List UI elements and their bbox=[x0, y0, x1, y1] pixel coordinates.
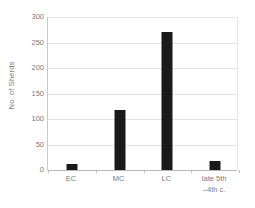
x-axis-tick bbox=[48, 170, 49, 173]
x-axis-tick-labels: ECMCLClate 5th–4th c. bbox=[47, 174, 238, 206]
y-tick-label-300: 300 bbox=[31, 13, 44, 21]
x-tick-label-line: MC bbox=[113, 174, 125, 183]
y-axis-title: No. of Sherds bbox=[5, 0, 19, 170]
x-tick-label-line: EC bbox=[66, 174, 76, 183]
y-tick-label-0: 0 bbox=[40, 166, 44, 174]
x-tick-label: LC bbox=[162, 174, 172, 185]
plot-area: 050100150200250300 bbox=[47, 17, 238, 170]
bar bbox=[210, 161, 221, 170]
bars-group bbox=[48, 17, 237, 170]
bar bbox=[162, 32, 173, 170]
x-tick-label: MC bbox=[113, 174, 125, 185]
y-tick-label-50: 50 bbox=[36, 141, 44, 149]
x-tick-label: EC bbox=[66, 174, 76, 185]
x-axis-tick bbox=[239, 170, 240, 173]
x-axis-tick bbox=[96, 170, 97, 173]
x-tick-label-line: LC bbox=[162, 174, 172, 183]
y-tick-label-250: 250 bbox=[31, 39, 44, 47]
bar bbox=[66, 164, 77, 170]
y-axis-title-label: No. of Sherds bbox=[8, 61, 17, 109]
bar bbox=[114, 110, 125, 170]
bar-chart: No. of Sherds 050100150200250300 ECMCLCl… bbox=[0, 0, 255, 208]
x-tick-label-line: –4th c. bbox=[202, 185, 227, 196]
y-tick-label-200: 200 bbox=[31, 64, 44, 72]
x-tick-label: late 5th–4th c. bbox=[202, 174, 227, 195]
y-tick-label-100: 100 bbox=[31, 115, 44, 123]
x-axis-tick bbox=[191, 170, 192, 173]
gridline-0 bbox=[48, 170, 237, 171]
x-axis-tick bbox=[144, 170, 145, 173]
y-tick-label-150: 150 bbox=[31, 90, 44, 98]
x-tick-label-line: late 5th bbox=[202, 174, 227, 183]
